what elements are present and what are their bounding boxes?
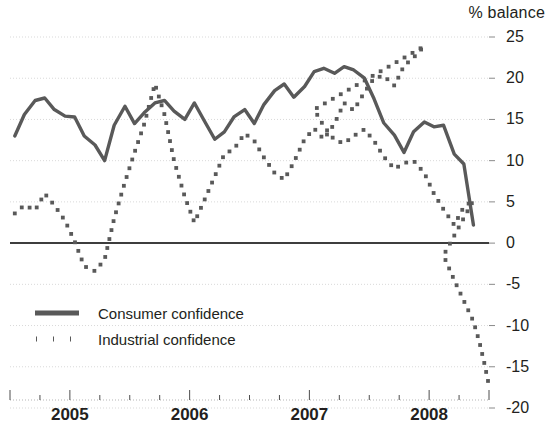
series-dot-industrial-confidence: [419, 46, 423, 50]
series-dot-industrial-confidence: [162, 112, 166, 116]
series-dot-industrial-confidence: [20, 206, 24, 210]
legend-label-consumer: Consumer confidence: [98, 305, 244, 322]
series-dot-industrial-confidence: [280, 176, 284, 180]
series-dot-industrial-confidence: [325, 128, 329, 132]
series-dot-industrial-confidence: [457, 226, 461, 230]
y-axis-tick-label: 5: [506, 193, 515, 211]
gridlines-group: [10, 37, 489, 408]
series-dot-industrial-confidence: [157, 95, 161, 99]
series-dot-industrial-confidence: [177, 175, 181, 179]
series-dot-industrial-confidence: [346, 138, 350, 142]
series-dot-industrial-confidence: [195, 214, 199, 218]
series-dot-industrial-confidence: [217, 164, 221, 168]
y-axis-tick-label: -15: [506, 358, 529, 376]
series-dot-industrial-confidence: [180, 184, 184, 188]
series-dot-industrial-confidence: [385, 77, 389, 81]
series-dot-industrial-confidence: [307, 132, 311, 136]
series-dot-industrial-confidence: [387, 65, 391, 69]
series-dot-industrial-confidence: [320, 135, 324, 139]
series-dot-industrial-confidence: [130, 158, 134, 162]
series-dot-industrial-confidence: [350, 107, 354, 111]
legend-label-industrial: Industrial confidence: [98, 331, 236, 348]
series-dot-industrial-confidence: [378, 149, 382, 153]
series-dot-industrial-confidence: [447, 267, 451, 271]
series-dot-industrial-confidence: [199, 206, 203, 210]
series-dot-industrial-confidence: [119, 193, 123, 197]
series-dot-industrial-confidence: [389, 163, 393, 167]
series-dot-industrial-confidence: [441, 207, 445, 211]
series-dot-industrial-confidence: [35, 206, 39, 210]
series-dot-industrial-confidence: [331, 136, 335, 140]
series-dot-industrial-confidence: [210, 181, 214, 185]
series-dot-industrial-confidence: [107, 237, 111, 241]
series-dot-industrial-confidence: [413, 160, 417, 164]
series-dot-industrial-confidence: [56, 208, 60, 212]
series-dot-industrial-confidence: [240, 136, 244, 140]
series-dot-industrial-confidence: [80, 258, 84, 262]
series-dot-industrial-confidence: [432, 191, 436, 195]
series-dot-industrial-confidence: [360, 94, 364, 98]
series-dot-industrial-confidence: [452, 234, 456, 238]
series-dot-industrial-confidence: [370, 79, 374, 83]
legend-item-consumer: Consumer confidence: [34, 300, 244, 326]
series-dot-industrial-confidence: [221, 155, 225, 159]
series-dot-industrial-confidence: [61, 216, 65, 220]
series-dot-industrial-confidence: [188, 210, 192, 214]
series-dot-industrial-confidence: [139, 131, 143, 135]
series-dot-industrial-confidence: [355, 102, 359, 106]
series-dot-industrial-confidence: [253, 140, 257, 144]
series-dot-industrial-confidence: [128, 166, 132, 170]
series-dot-industrial-confidence: [466, 209, 470, 213]
series-dot-industrial-confidence: [455, 283, 459, 287]
series-dot-industrial-confidence: [315, 106, 319, 110]
chart-plot-area: [0, 0, 553, 433]
series-dot-industrial-confidence: [476, 334, 480, 338]
chart-legend: Consumer confidence Industrial confidenc…: [34, 300, 244, 352]
series-dot-industrial-confidence: [105, 246, 109, 250]
series-dot-industrial-confidence: [142, 123, 146, 127]
series-dot-industrial-confidence: [272, 171, 276, 175]
series-dot-industrial-confidence: [383, 156, 387, 160]
series-dot-industrial-confidence: [456, 216, 460, 220]
series-dot-industrial-confidence: [413, 54, 417, 58]
series-dot-industrial-confidence: [373, 141, 377, 145]
series-dot-industrial-confidence: [331, 97, 335, 101]
series-dot-industrial-confidence: [313, 128, 317, 132]
series-dot-industrial-confidence: [44, 194, 48, 198]
x-axis-group: [10, 37, 495, 408]
series-dot-industrial-confidence: [396, 76, 400, 80]
series-dot-industrial-confidence: [378, 75, 382, 79]
series-dot-industrial-confidence: [28, 206, 32, 210]
x-axis-tick-label: 2006: [171, 405, 209, 425]
y-axis-tick-label: -10: [506, 317, 529, 335]
y-axis-unit-label: % balance: [468, 4, 545, 22]
series-dot-industrial-confidence: [459, 292, 463, 296]
series-dot-industrial-confidence: [478, 343, 482, 347]
series-dot-industrial-confidence: [323, 102, 327, 106]
series-dot-industrial-confidence: [182, 193, 186, 197]
series-dot-industrial-confidence: [84, 265, 88, 269]
series-dot-industrial-confidence: [290, 164, 294, 168]
series-dot-industrial-confidence: [480, 352, 484, 356]
series-dot-industrial-confidence: [436, 199, 440, 203]
series-dot-industrial-confidence: [448, 242, 452, 246]
x-axis-tick-label: 2008: [410, 405, 448, 425]
series-dot-industrial-confidence: [69, 232, 73, 236]
series-dot-industrial-confidence: [335, 117, 339, 121]
series-dot-industrial-confidence: [228, 150, 232, 154]
series-dot-industrial-confidence: [99, 263, 103, 267]
x-axis-tick-label: 2007: [290, 405, 328, 425]
series-dot-industrial-confidence: [154, 86, 158, 90]
series-dot-industrial-confidence: [460, 208, 464, 212]
series-dot-industrial-confidence: [396, 165, 400, 169]
series-dot-industrial-confidence: [257, 148, 261, 152]
series-dot-industrial-confidence: [172, 157, 176, 161]
series-dot-industrial-confidence: [170, 148, 174, 152]
series-dot-industrial-confidence: [185, 201, 189, 205]
series-dot-industrial-confidence: [112, 219, 116, 223]
series-dot-industrial-confidence: [444, 258, 448, 262]
legend-dotted-line-icon: [34, 332, 80, 346]
series-dot-industrial-confidence: [473, 325, 477, 329]
series-dot-industrial-confidence: [285, 172, 289, 176]
series-dot-industrial-confidence: [160, 103, 164, 107]
